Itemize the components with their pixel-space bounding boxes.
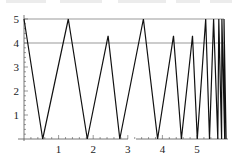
y-tick-label: 4: [14, 37, 20, 49]
x-tick-label: 5: [194, 143, 200, 155]
data-series: [24, 19, 226, 139]
zigzag-chart: 1234512345: [0, 0, 238, 160]
x-tick-label: 1: [56, 143, 62, 155]
x-tick-label: 4: [160, 143, 166, 155]
x-tick-label: 3: [125, 143, 131, 155]
y-tick-label: 3: [14, 61, 20, 73]
y-tick-label: 5: [14, 13, 20, 25]
y-tick-label: 2: [14, 85, 20, 97]
y-tick-label: 1: [14, 109, 20, 121]
series-line-zigzag: [24, 19, 226, 139]
cropped-header-text: [6, 0, 232, 3]
reference-lines: [24, 19, 224, 43]
x-tick-label: 2: [90, 143, 96, 155]
